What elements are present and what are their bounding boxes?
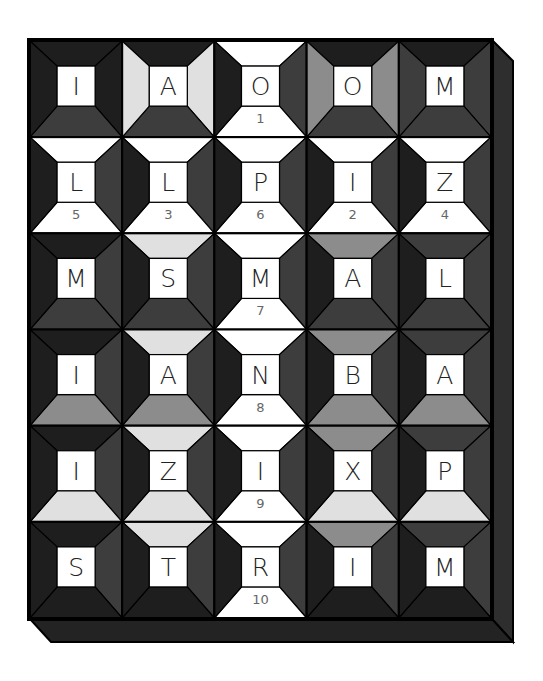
tile-letter: L xyxy=(69,168,83,197)
tile-letter: M xyxy=(250,264,272,293)
tile-letter: L xyxy=(161,168,175,197)
puzzle-tile[interactable]: S xyxy=(122,233,214,329)
puzzle-tile[interactable]: A xyxy=(307,233,399,329)
puzzle-tile[interactable]: R10 xyxy=(214,522,306,618)
puzzle-tile[interactable]: L5 xyxy=(30,137,122,233)
puzzle-tile[interactable]: Z4 xyxy=(399,137,491,233)
puzzle-tile[interactable]: Z xyxy=(122,426,214,522)
tile-number: 2 xyxy=(349,207,357,222)
tile-letter: A xyxy=(160,361,177,390)
puzzle-tile[interactable]: N8 xyxy=(214,330,306,426)
tile-letter: X xyxy=(344,457,361,486)
puzzle-tile[interactable]: I xyxy=(30,41,122,137)
tile-letter: I xyxy=(72,72,79,101)
tile-letter: N xyxy=(251,361,270,390)
puzzle-tile[interactable]: A xyxy=(399,330,491,426)
tile-letter: I xyxy=(72,457,79,486)
puzzle-tile[interactable]: A xyxy=(122,330,214,426)
tile-letter: A xyxy=(436,361,453,390)
puzzle-tile[interactable]: X xyxy=(307,426,399,522)
tile-number: 10 xyxy=(252,592,269,607)
tile-letter: O xyxy=(343,72,363,101)
puzzle-tile[interactable]: P6 xyxy=(214,137,306,233)
puzzle-tile[interactable]: A xyxy=(122,41,214,137)
puzzle-tile[interactable]: B xyxy=(307,330,399,426)
tile-letter: L xyxy=(438,264,452,293)
tile-letter: M xyxy=(65,264,87,293)
tile-letter: Z xyxy=(160,457,177,486)
tile-letter: B xyxy=(345,361,361,390)
puzzle-tile[interactable]: L xyxy=(399,233,491,329)
tile-letter: I xyxy=(349,168,356,197)
puzzle-tile[interactable]: P xyxy=(399,426,491,522)
puzzle-tile[interactable]: M xyxy=(399,522,491,618)
puzzle-tile[interactable]: I2 xyxy=(307,137,399,233)
puzzle-tile[interactable]: O xyxy=(307,41,399,137)
puzzle-tile[interactable]: M xyxy=(30,233,122,329)
tile-letter: Z xyxy=(436,168,453,197)
tile-letter: M xyxy=(434,553,456,582)
tile-letter: P xyxy=(437,457,452,486)
tile-number: 3 xyxy=(164,207,172,222)
puzzle-tile[interactable]: M xyxy=(399,41,491,137)
tile-number: 5 xyxy=(72,207,80,222)
tile-letter: S xyxy=(68,553,84,582)
board-extrusion-right xyxy=(492,40,513,642)
tile-letter: A xyxy=(344,264,361,293)
puzzle-tile[interactable]: T xyxy=(122,522,214,618)
tile-letter: A xyxy=(160,72,177,101)
tile-letter: M xyxy=(434,72,456,101)
tile-number: 4 xyxy=(441,207,449,222)
puzzle-tile[interactable]: I xyxy=(30,426,122,522)
puzzle-tile[interactable]: L3 xyxy=(122,137,214,233)
tile-number: 7 xyxy=(256,303,264,318)
tile-number: 6 xyxy=(256,207,264,222)
tile-number: 9 xyxy=(256,496,264,511)
tile-number: 8 xyxy=(256,400,264,415)
tile-letter: I xyxy=(349,553,356,582)
tile-letter: S xyxy=(160,264,176,293)
puzzle-tile[interactable]: O1 xyxy=(214,41,306,137)
puzzle-tile[interactable]: M7 xyxy=(214,233,306,329)
tile-letter: P xyxy=(253,168,268,197)
tile-letter: I xyxy=(72,361,79,390)
puzzle-tile[interactable]: I9 xyxy=(214,426,306,522)
tile-number: 1 xyxy=(256,111,264,126)
tile-letter: R xyxy=(252,553,269,582)
puzzle-tile[interactable]: I xyxy=(307,522,399,618)
puzzle-board: IAO1OML5L3P6I2Z4MSM7ALIAN8BAIZI9XPSTR10I… xyxy=(0,0,543,681)
tile-letter: O xyxy=(251,72,271,101)
tile-letter: I xyxy=(257,457,264,486)
board-extrusion-bottom xyxy=(30,619,513,642)
tile-grid: IAO1OML5L3P6I2Z4MSM7ALIAN8BAIZI9XPSTR10I… xyxy=(30,41,491,618)
tile-letter: T xyxy=(161,553,176,582)
puzzle-tile[interactable]: I xyxy=(30,330,122,426)
puzzle-tile[interactable]: S xyxy=(30,522,122,618)
